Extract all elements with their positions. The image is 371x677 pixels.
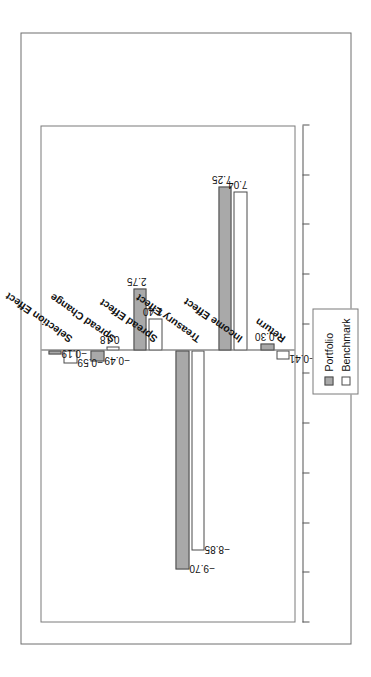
- bar-treasury-effect-benchmark: [191, 350, 205, 550]
- axis-tick: [302, 423, 309, 424]
- bar-income-effect-benchmark: [233, 191, 247, 350]
- legend-label-benchmark: Benchmark: [339, 318, 351, 371]
- axis-tick: [302, 125, 309, 126]
- legend-swatch-portfolio-icon: [324, 377, 333, 386]
- plot-area: [40, 126, 295, 623]
- bar-return-benchmark: [276, 350, 290, 359]
- bar-spread-change-benchmark: [106, 346, 120, 350]
- legend-item-portfolio[interactable]: Portfolio: [322, 333, 334, 386]
- bar-treasury-effect-portfolio: [175, 350, 189, 569]
- axis-tick: [302, 224, 309, 225]
- figure-page: Contributors to the Return 0.30−0.417.25…: [0, 0, 371, 677]
- category-axis-line: [302, 126, 303, 623]
- axis-tick: [302, 174, 309, 175]
- axis-tick: [302, 323, 309, 324]
- legend-item-benchmark[interactable]: Benchmark: [339, 318, 351, 385]
- bar-selection-effect-portfolio: [48, 350, 62, 354]
- value-label-income-effect-benchmark: 7.04: [227, 178, 246, 189]
- bar-return-portfolio: [260, 344, 274, 351]
- rotated-figure-container: 0.30−0.417.257.04−9.70−8.852.751.40−0.49…: [20, 33, 351, 645]
- axis-tick: [302, 373, 309, 374]
- legend-swatch-benchmark-icon: [341, 377, 350, 386]
- value-label-selection-effect-benchmark: −0.59: [77, 357, 102, 368]
- axis-tick: [302, 522, 309, 523]
- value-label-return-benchmark: −0.41: [289, 353, 314, 364]
- axis-tick: [302, 472, 309, 473]
- value-label-treasury-effect-portfolio: −9.70: [189, 563, 214, 574]
- axis-tick: [302, 622, 309, 623]
- axis-tick: [302, 274, 309, 275]
- legend-label-portfolio: Portfolio: [322, 333, 334, 372]
- value-label-spread-effect-portfolio: 2.75: [127, 275, 146, 286]
- value-label-treasury-effect-benchmark: −8.85: [204, 543, 229, 554]
- value-label-spread-change-portfolio: −0.49: [104, 354, 129, 365]
- axis-tick: [302, 572, 309, 573]
- chart-legend[interactable]: Portfolio Benchmark: [312, 309, 358, 395]
